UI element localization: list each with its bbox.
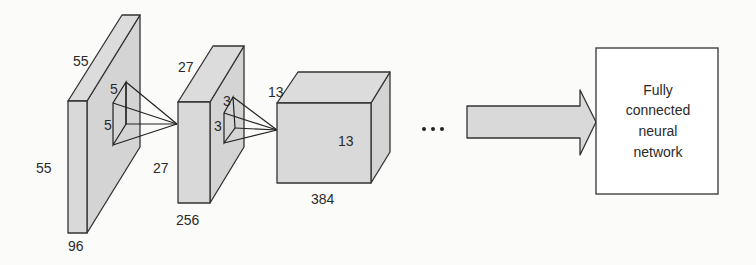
layer3-width-label: 13	[268, 84, 284, 100]
fc-label-line3: neural	[639, 123, 678, 139]
right-arrow-icon	[467, 90, 596, 155]
layer2-width-label: 27	[178, 59, 194, 75]
layer2-front-face	[178, 102, 210, 203]
layer2-depth-label: 256	[176, 212, 200, 228]
fc-label-line2: connected	[626, 102, 691, 118]
layer1-depth-label: 96	[68, 238, 84, 254]
cnn-diagram: 55 55 96 5 5 27 27 256 3 3 13 13 384 Ful…	[0, 0, 756, 265]
layer3-height-label: 13	[338, 133, 354, 149]
layer3-volume	[277, 72, 390, 183]
layer2-kernel-w-label: 3	[214, 118, 222, 134]
layer3-depth-label: 384	[311, 191, 335, 207]
layer2-kernel-h-label: 3	[223, 93, 231, 109]
fully-connected-box	[596, 48, 718, 194]
fc-label-line1: Fully	[643, 82, 673, 98]
layer1-width-label: 55	[73, 53, 89, 69]
layer3-front-face	[277, 103, 371, 183]
layer3-top-face	[277, 72, 390, 103]
layer1-kernel-h-label: 5	[110, 81, 118, 97]
layer1-height-label: 55	[36, 160, 52, 176]
fc-label-line4: network	[633, 144, 683, 160]
layer1-front-face	[68, 101, 87, 233]
ellipsis	[422, 127, 444, 131]
layer1-kernel-w-label: 5	[104, 117, 112, 133]
layer2-height-label: 27	[153, 160, 169, 176]
